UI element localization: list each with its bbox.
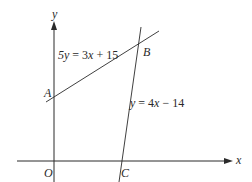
- diagram-canvas: [0, 0, 252, 182]
- y-axis-arrow-icon: [51, 21, 57, 30]
- point-A-label: A: [44, 87, 51, 99]
- equation-line-AB: 5y = 3x + 15: [58, 49, 118, 61]
- y-axis-label: y: [52, 8, 57, 20]
- x-axis-label: x: [236, 154, 241, 166]
- equation-line-BC: y = 4x − 14: [130, 97, 184, 109]
- line-AB: [46, 31, 159, 102]
- point-C-label: C: [121, 167, 129, 179]
- x-axis-arrow-icon: [224, 158, 233, 164]
- point-B-label: B: [143, 46, 150, 58]
- coordinate-diagram: y x O A B C 5y = 3x + 15 y = 4x − 14 5y …: [0, 0, 252, 182]
- origin-label: O: [44, 167, 53, 179]
